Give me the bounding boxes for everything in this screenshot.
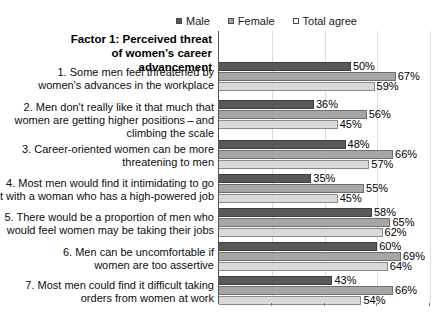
legend-label-female: Female	[238, 15, 275, 27]
legend-swatch-female	[228, 18, 234, 24]
legend-item-male[interactable]: Male	[176, 15, 210, 27]
category-label: 4. Most men would find it intimidating t…	[0, 177, 214, 203]
bar-total[interactable]	[219, 228, 383, 237]
legend-swatch-male	[176, 18, 182, 24]
legend-item-female[interactable]: Female	[228, 15, 275, 27]
category-label: 1. Some men feel threatened by women's a…	[0, 66, 214, 92]
bar-female[interactable]	[219, 252, 401, 261]
bar-value-label: 59%	[375, 80, 399, 93]
bar-total[interactable]	[219, 296, 361, 305]
chart-legend: Male Female Total agree	[176, 13, 426, 29]
bar-male[interactable]	[219, 100, 314, 109]
bar-value-label: 55%	[364, 182, 388, 195]
category-label: 7. Most men could find it difficult taki…	[0, 279, 214, 305]
category-row: 7. Most men could find it difficult taki…	[0, 276, 438, 310]
axis-tick-20	[271, 303, 272, 306]
bar-value-label: 66%	[393, 284, 417, 297]
bar-total[interactable]	[219, 82, 375, 91]
bar-value-label: 64%	[388, 260, 412, 273]
bar-female[interactable]	[219, 150, 393, 159]
bar-value-label: 62%	[383, 226, 407, 239]
category-row: 3. Career-oriented women can be more thr…	[0, 140, 438, 174]
bar-total[interactable]	[219, 262, 388, 271]
category-row: 2. Men don't really like it that much th…	[0, 100, 438, 134]
bar-female[interactable]	[219, 72, 396, 81]
legend-label-total-agree: Total agree	[303, 15, 357, 27]
bar-value-label: 66%	[393, 148, 417, 161]
bar-male[interactable]	[219, 242, 377, 251]
category-label: 3. Career-oriented women can be more thr…	[0, 143, 214, 169]
axis-tick-40	[324, 303, 325, 306]
chart-container: Male Female Total agree Factor 1: Percei…	[0, 0, 438, 321]
bar-value-label: 45%	[338, 192, 362, 205]
bar-total[interactable]	[219, 160, 369, 169]
bar-male[interactable]	[219, 140, 346, 149]
bar-value-label: 45%	[338, 118, 362, 131]
bar-value-label: 57%	[369, 158, 393, 171]
bar-value-label: 54%	[361, 294, 385, 307]
axis-tick-60	[376, 303, 377, 306]
category-label: 5. There would be a proportion of men wh…	[0, 211, 214, 237]
legend-item-total-agree[interactable]: Total agree	[293, 15, 357, 27]
category-row: 1. Some men feel threatened by women's a…	[0, 62, 438, 96]
bar-male[interactable]	[219, 208, 372, 217]
category-row: 4. Most men would find it intimidating t…	[0, 174, 438, 208]
bar-total[interactable]	[219, 194, 338, 203]
bar-value-label: 67%	[396, 70, 420, 83]
bar-male[interactable]	[219, 62, 351, 71]
category-row: 6. Men can be uncomfortable if women are…	[0, 242, 438, 276]
category-label: 6. Men can be uncomfortable if women are…	[0, 246, 214, 272]
bar-total[interactable]	[219, 120, 338, 129]
bar-female[interactable]	[219, 218, 390, 227]
axis-tick-80	[429, 303, 430, 306]
legend-label-male: Male	[186, 15, 210, 27]
category-row: 5. There would be a proportion of men wh…	[0, 208, 438, 242]
bar-value-label: 56%	[367, 108, 391, 121]
bar-male[interactable]	[219, 276, 332, 285]
bar-male[interactable]	[219, 174, 311, 183]
category-label: 2. Men don't really like it that much th…	[0, 101, 214, 141]
legend-swatch-total-agree	[293, 18, 299, 24]
